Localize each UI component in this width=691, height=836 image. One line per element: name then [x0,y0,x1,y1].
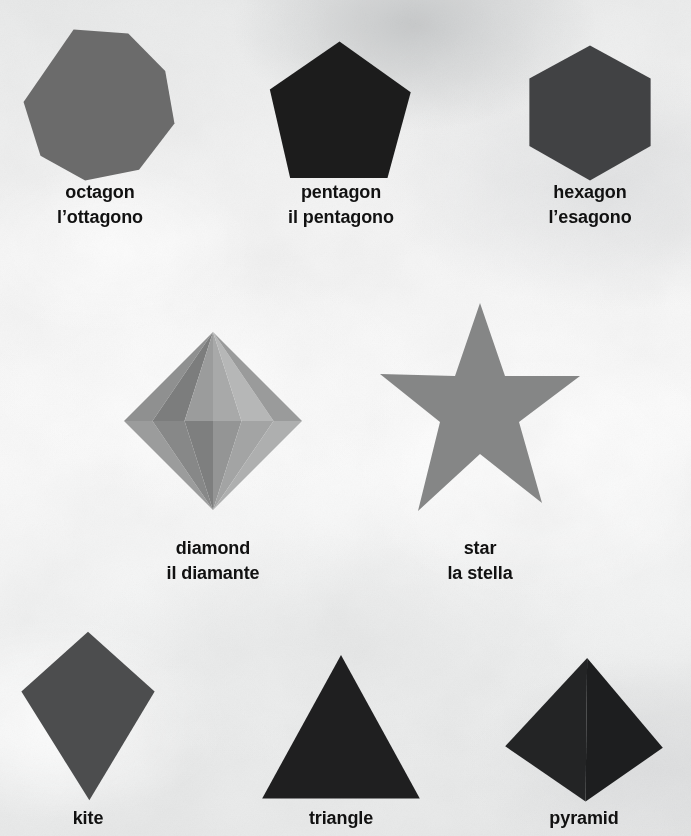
octagon-polygon [24,30,175,181]
octagon-label-it: l’ottagono [12,205,188,230]
star-shape [380,303,580,511]
shapes-poster: octagon l’ottagono pentagon il pentagono… [0,0,691,836]
triangle-label-en: triangle [253,806,429,831]
diamond-shape [124,332,302,510]
diamond-label: diamond il diamante [125,536,301,586]
pentagon-polygon [270,41,411,178]
star-polygon [380,303,580,511]
octagon-label-en: octagon [12,180,188,205]
pentagon-label: pentagon il pentagono [253,180,429,230]
hexagon-label: hexagon l’esagono [502,180,678,230]
pyramid-shape [505,658,663,803]
pentagon-shape [268,40,414,178]
pyramid-left-face [505,658,587,801]
pyramid-faces [505,658,663,801]
diamond-facets [124,332,302,510]
triangle-shape [262,655,420,800]
diamond-label-en: diamond [125,536,301,561]
kite-polygon [21,632,154,801]
star-label-it: la stella [392,561,568,586]
hexagon-label-it: l’esagono [502,205,678,230]
kite-label: kite [0,806,176,831]
pyramid-label-en: pyramid [496,806,672,831]
pyramid-right-face [586,658,663,801]
diamond-label-it: il diamante [125,561,301,586]
triangle-polygon [262,655,420,798]
kite-shape [20,630,156,802]
kite-label-en: kite [0,806,176,831]
hexagon-label-en: hexagon [502,180,678,205]
octagon-shape [22,28,176,182]
hexagon-polygon [529,45,650,180]
pentagon-label-it: il pentagono [253,205,429,230]
octagon-label: octagon l’ottagono [12,180,188,230]
star-label: star la stella [392,536,568,586]
pyramid-label: pyramid [496,806,672,831]
star-label-en: star [392,536,568,561]
hexagon-shape [528,44,652,182]
triangle-label: triangle [253,806,429,831]
pentagon-label-en: pentagon [253,180,429,205]
